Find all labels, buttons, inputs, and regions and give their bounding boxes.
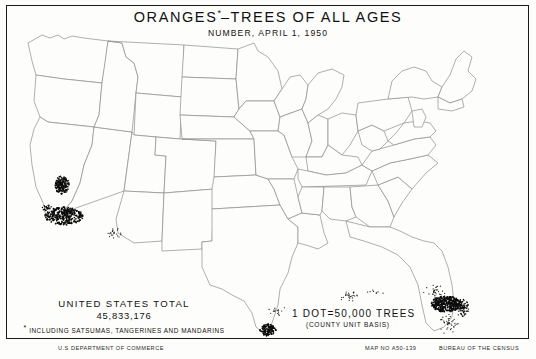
dot-cluster-louisiana-gulf: [341, 291, 358, 301]
total-legend-value: 45,833,176: [14, 310, 234, 321]
united-states-map: [6, 5, 529, 339]
footer-agency: U.S DEPARTMENT OF COMMERCE: [58, 345, 164, 351]
dot-cluster-alabama-gulf-edge: [367, 289, 384, 293]
total-legend: UNITED STATES TOTAL 45,833,176 * INCLUDI…: [14, 298, 234, 334]
total-legend-footnote: * INCLUDING SATSUMAS, TANGERINES AND MAN…: [14, 324, 234, 334]
footnote-text: INCLUDING SATSUMAS, TANGERINES AND MANDA…: [29, 327, 224, 334]
footer-map-number: MAP NO A50-139: [365, 345, 416, 351]
dot-legend-basis: (COUNTY UNIT BASIS): [306, 321, 472, 328]
map-sheet: ORANGES*–TREES OF ALL AGES NUMBER, APRIL…: [0, 0, 536, 359]
dot-legend-value: 1 DOT=50,000 TREES: [292, 308, 472, 319]
dot-legend: 1 DOT=50,000 TREES (COUNTY UNIT BASIS): [292, 308, 472, 328]
footer-bureau: BUREAU OF THE CENSUS: [439, 345, 519, 351]
footnote-asterisk: *: [24, 324, 27, 331]
state-outlines: [28, 35, 476, 335]
total-legend-label: UNITED STATES TOTAL: [14, 298, 234, 309]
footer: U.S DEPARTMENT OF COMMERCE MAP NO A50-13…: [6, 341, 529, 357]
